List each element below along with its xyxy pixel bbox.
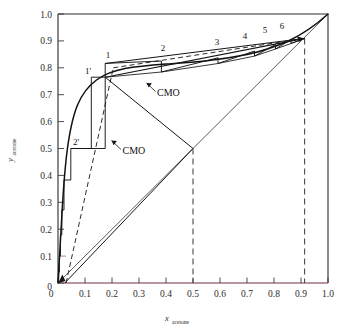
x-tick-label: 0.2 [106,289,118,299]
x-tick-label: 0.1 [79,289,91,299]
y-tick-label: 0.9 [40,36,52,46]
x-tick-label: 0.7 [241,289,253,299]
x-tick-label: 1.0 [322,289,334,299]
x-tick-label: 0.8 [268,289,280,299]
stage-label-6: 6 [280,21,285,31]
y-tick-label: 0.5 [40,144,52,154]
stage-label-2-prime: 2' [73,137,80,147]
stage-label-5: 5 [263,25,268,35]
x-tick-label: 0.4 [160,289,172,299]
x-tick-label: 0.6 [214,289,226,299]
x-tick-label: 0.3 [133,289,145,299]
y-tick-label: 0.1 [40,252,52,262]
y-axis-title-subscript: acetone [11,138,17,156]
x-axis-title-subscript: acetone [172,319,190,325]
y-tick-label: 0.2 [40,225,52,235]
y-tick-label: 0.4 [40,171,52,181]
stage-label-4: 4 [243,31,248,41]
cmo-stripping-label: CMO [123,145,146,156]
y-tick-label: 0.7 [40,90,52,100]
stage-label-2: 2 [161,43,166,53]
mccabe-thiele-diagram: 1.0 0.9 0.8 0.7 0.6 0.5 0.4 0.3 0.2 0.1 … [0,0,346,332]
cmo-rectifying-label: CMO [157,87,180,98]
stage-label-3: 3 [215,37,220,47]
y-tick-label: 0.6 [40,117,52,127]
stage-label-1-prime: 1' [85,66,92,76]
x-tick-label: 0.5 [187,289,199,299]
chart-page: 1.0 0.9 0.8 0.7 0.6 0.5 0.4 0.3 0.2 0.1 … [0,0,346,332]
y-tick-label: 0.3 [40,198,52,208]
x-tick-label: 0.9 [295,289,307,299]
x-axis-title-symbol: x [164,313,169,323]
y-tick-label: 0.8 [40,63,52,73]
stage-label-1: 1 [106,50,111,60]
y-axis-title-symbol: y [5,158,15,163]
x-tick-label: 0 [49,289,54,299]
y-tick-label: 1.0 [40,10,52,20]
